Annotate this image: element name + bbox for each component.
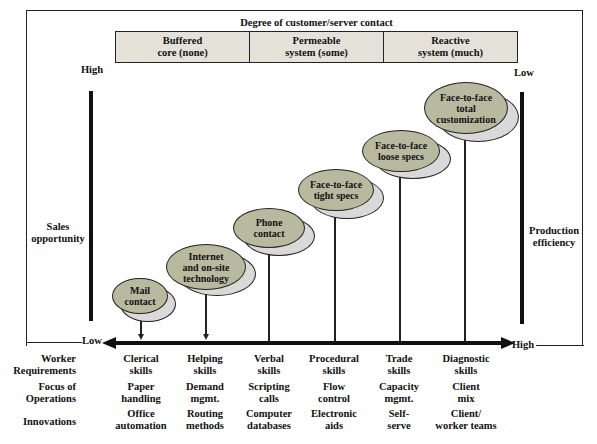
bubble-phone-contact: Phonecontact: [233, 208, 305, 248]
bubble-text: Face-to-face: [436, 92, 495, 103]
contact-level-line1: Reactive: [384, 35, 517, 47]
contact-degree-title: Degree of customer/server contact: [115, 17, 518, 28]
contact-level-boxes: Buffered core (none) Permeable system (s…: [115, 31, 518, 63]
sales-opportunity-label: Sales opportunity: [28, 221, 88, 245]
row-label-line1: Innovations: [4, 416, 76, 428]
bubble-text: contact: [253, 228, 284, 239]
contact-level-line2: system (some): [250, 47, 383, 59]
sales-opportunity-bar: [89, 91, 93, 321]
arrow-down-icon: [138, 334, 144, 340]
bubble-text: loose specs: [375, 151, 427, 162]
contact-level-line2: system (much): [384, 47, 517, 59]
bubble-text: tight specs: [310, 190, 362, 201]
bubble-mail-contact: Mailcontact: [112, 278, 168, 314]
bubble-tight-specs: Face-to-facetight specs: [298, 169, 374, 211]
bubble-stem: [399, 168, 401, 341]
horizontal-axis-line: [112, 341, 504, 345]
cell-line: Client/: [426, 408, 506, 420]
bubble-text: Internet: [183, 251, 230, 262]
cell-line: mix: [426, 393, 506, 405]
row-label-worker-requirements: Worker Requirements: [4, 353, 76, 377]
row-label-innovations: Innovations: [4, 416, 76, 428]
bubble-internet-technology: Internetand on-sitetechnology: [166, 244, 246, 290]
axis-label-line2: efficiency: [526, 237, 582, 249]
contact-level-reactive: Reactive system (much): [384, 32, 517, 62]
frame-bottom-left-line: [26, 342, 82, 343]
contact-level-line1: Buffered: [116, 35, 249, 47]
bubble-stem: [464, 130, 466, 341]
cell-line: Diagnostic: [426, 353, 506, 365]
bubble-text: Phone: [253, 217, 284, 228]
row-label-line1: Focus of: [4, 381, 76, 393]
contact-level-line2: core (none): [116, 47, 249, 59]
bubble-text: Face-to-face: [375, 140, 427, 151]
table-cell: Client/worker teams: [426, 408, 506, 432]
table-cell: Clientmix: [426, 381, 506, 405]
bubble-text: Face-to-face: [310, 179, 362, 190]
contact-level-buffered: Buffered core (none): [116, 32, 250, 62]
table-cell: Diagnosticskills: [426, 353, 506, 377]
production-efficiency-label: Production efficiency: [526, 225, 582, 249]
cell-line: worker teams: [426, 420, 506, 432]
row-label-line2: Requirements: [4, 365, 76, 377]
sales-high-label: High: [78, 64, 106, 76]
contact-level-permeable: Permeable system (some): [250, 32, 384, 62]
arrow-down-icon: [203, 334, 209, 340]
bubble-text: and on-site: [183, 262, 230, 273]
axis-label-line2: opportunity: [28, 233, 88, 245]
bubble-text: technology: [183, 273, 230, 284]
axis-label-line1: Production: [526, 225, 582, 237]
bubble-text: total: [436, 103, 495, 114]
bubble-text: Mail: [124, 285, 155, 296]
contact-level-line1: Permeable: [250, 35, 383, 47]
row-label-line1: Worker: [4, 353, 76, 365]
cell-line: Client: [426, 381, 506, 393]
row-label-line2: Operations: [4, 393, 76, 405]
bubble-loose-specs: Face-to-faceloose specs: [362, 130, 440, 172]
bubble-stem: [334, 208, 336, 341]
bubble-text: customization: [436, 114, 495, 125]
efficiency-low-label: Low: [512, 67, 536, 79]
cell-line: skills: [426, 365, 506, 377]
sales-low-label: Low: [82, 335, 102, 347]
arrow-left-icon: [102, 337, 116, 349]
bubble-total-customization: Face-to-facetotalcustomization: [424, 82, 508, 134]
axis-label-line1: Sales: [28, 221, 88, 233]
bubble-text: contact: [124, 296, 155, 307]
production-efficiency-bar: [520, 92, 524, 324]
row-label-focus-of-operations: Focus of Operations: [4, 381, 76, 405]
frame-bottom-right-line: [536, 345, 584, 346]
arrow-right-icon: [501, 337, 515, 349]
bubble-stem: [268, 246, 270, 341]
